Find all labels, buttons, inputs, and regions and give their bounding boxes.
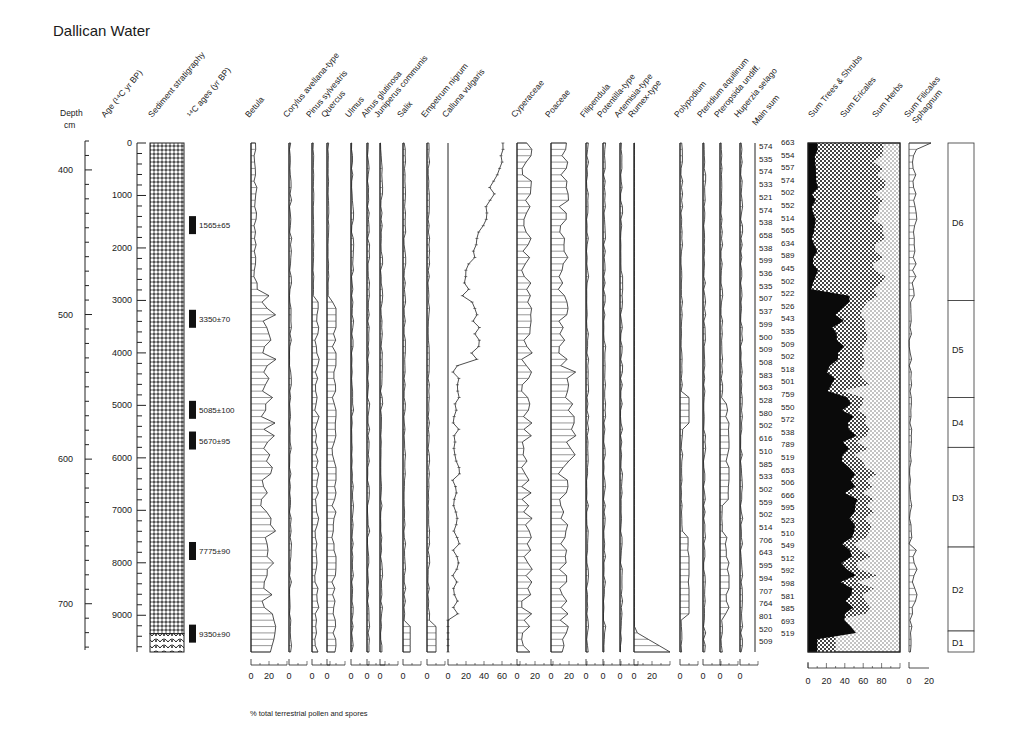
main-sum-value: 502 [781,352,795,361]
main-sum-value: 520 [759,625,773,634]
main-sum-value: 514 [759,523,773,532]
svg-text:Sum Herbs: Sum Herbs [870,80,905,119]
scale-label: 20 [264,671,274,681]
scale-label: 0 [424,671,429,681]
scale-label: 0 [700,671,705,681]
main-sum-value: 574 [759,142,773,151]
x-axis-label: % total terrestrial pollen and spores [250,709,368,718]
svg-text:20: 20 [924,676,934,686]
main-sum-value: 509 [759,345,773,354]
main-sum-value: 521 [759,193,773,202]
svg-text:400: 400 [58,165,73,175]
main-sum-value: 554 [781,151,795,160]
main-sum-value: 583 [759,371,773,380]
svg-text:2000: 2000 [112,243,132,253]
main-sum-value: 801 [759,612,773,621]
depth-label: Depth [60,108,83,118]
main-sum-value: 522 [781,289,795,298]
scale-label: 0 [309,671,314,681]
main-sum-value: 658 [759,231,773,240]
taxon-curve: 0 [677,143,698,681]
main-sum-value: 616 [759,434,773,443]
c14-date-label: 1565±65 [199,221,231,230]
main-sum-value: 565 [781,226,795,235]
main-sum-value: 581 [781,592,795,601]
main-sum-value: 598 [781,579,795,588]
main-sum-value: 559 [759,498,773,507]
taxon-curve: 0 [424,143,445,681]
svg-text:3000: 3000 [112,295,132,305]
taxon-curve: 0 [617,143,638,681]
main-sum-value: 574 [781,176,795,185]
main-sum-value: 643 [759,548,773,557]
main-sum-value: 509 [759,637,773,646]
taxon-curve: 0 [600,143,621,681]
scale-label: 0 [445,671,450,681]
main-sum-value: 666 [781,491,795,500]
taxon-curve: 0 [700,143,721,681]
scale-label: 0 [583,671,588,681]
scale-label: 0 [717,671,722,681]
c14-date-label: 9350±90 [199,630,231,639]
main-sum-value: 543 [781,314,795,323]
scale-label: 0 [677,671,682,681]
c14-date-marker [189,432,196,450]
main-sum-value: 592 [781,566,795,575]
svg-text:500: 500 [58,310,73,320]
svg-text:700: 700 [58,599,73,609]
scale-label: 20 [564,671,574,681]
main-sum-value: 563 [759,383,773,392]
main-sum-value: 693 [781,617,795,626]
main-sum-value: 552 [781,201,795,210]
main-sum-value: 535 [759,155,773,164]
main-sum-value: 580 [759,409,773,418]
main-sum-value: 759 [781,390,795,399]
svg-text:6000: 6000 [112,453,132,463]
taxon-curve: 0 [583,143,604,681]
main-sum-value: 528 [759,396,773,405]
summary-diagram: 020406080020 [805,143,934,686]
svg-text:0: 0 [805,676,810,686]
scale-label: 20 [530,671,540,681]
scale-label: 0 [248,671,253,681]
main-sum-value: 501 [781,377,795,386]
c14-date-marker [189,542,196,560]
svg-text:20: 20 [821,676,831,686]
main-sum-value: 508 [759,358,773,367]
main-sum-value: 502 [759,510,773,519]
main-sum-value: 789 [781,440,795,449]
scale-label: 0 [617,671,622,681]
svg-text:Cyperaceae: Cyperaceae [509,78,546,120]
main-sum-value: 653 [781,466,795,475]
main-sum-value: 510 [759,447,773,456]
main-sum-value: 500 [759,333,773,342]
zone-label: D5 [952,345,964,355]
main-sum-value: 599 [759,256,773,265]
svg-text:7000: 7000 [112,505,132,515]
c14-date-marker [189,216,196,234]
scale-label: 0 [364,671,369,681]
main-sum-value: 535 [781,327,795,336]
taxa-curves: 0200000000002040600200200000200000 [248,143,758,681]
main-sum-value: 574 [759,167,773,176]
main-sum-value: 537 [759,307,773,316]
svg-text:Poaceae: Poaceae [543,87,572,119]
main-sum-value: 663 [781,138,795,147]
main-sum-value: 502 [759,485,773,494]
svg-text:Salix: Salix [395,98,415,119]
main-sum-value: 645 [781,264,795,273]
svg-text:40: 40 [840,676,850,686]
svg-text:Betula: Betula [243,94,266,119]
main-sum-value: 502 [759,421,773,430]
scale-label: 40 [479,671,489,681]
main-sum-value: 634 [781,239,795,248]
main-sum-value: 707 [759,587,773,596]
scale-label: 0 [600,671,605,681]
zone-label: D4 [952,418,964,428]
taxon-curve: 020 [548,143,587,681]
scale-label: 0 [286,671,291,681]
scale-label: 0 [737,671,742,681]
taxon-curve: 0 [286,143,307,681]
svg-text:4000: 4000 [112,348,132,358]
scale-label: 0 [400,671,405,681]
